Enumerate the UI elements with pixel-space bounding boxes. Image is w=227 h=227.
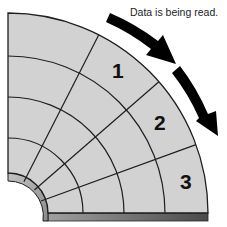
- status-caption: Data is being read.: [130, 6, 218, 18]
- platter-face: [8, 13, 208, 213]
- platter-edge: [48, 213, 208, 221]
- sector-label-3: 3: [180, 170, 192, 193]
- sector-label-1: 1: [112, 59, 124, 82]
- sector-label-2: 2: [154, 111, 166, 134]
- disk-sector-diagram: 1 2 3: [0, 0, 227, 227]
